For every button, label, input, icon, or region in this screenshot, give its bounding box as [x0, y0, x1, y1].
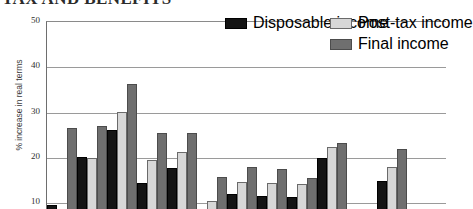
bar[interactable]: [77, 157, 87, 209]
y-axis-tick-20: 20: [18, 151, 40, 161]
y-axis-tick-40: 40: [18, 60, 40, 70]
y-axis-ticks: 5040302010: [14, 0, 40, 209]
bar-group: [167, 21, 197, 209]
bar[interactable]: [267, 183, 277, 209]
bar[interactable]: [247, 167, 257, 209]
bar-group: [257, 21, 287, 209]
bar[interactable]: [277, 169, 287, 209]
legend-label-final-income: Final income: [358, 35, 449, 53]
bar[interactable]: [67, 128, 77, 209]
bar[interactable]: [97, 126, 107, 209]
bar[interactable]: [217, 177, 227, 209]
bar-group: [287, 21, 317, 209]
bar[interactable]: [307, 178, 317, 209]
bar[interactable]: [117, 112, 127, 209]
legend-swatch-post-tax-income: [330, 18, 352, 29]
bar[interactable]: [107, 130, 117, 209]
bar[interactable]: [337, 143, 347, 209]
bar-group: [197, 21, 227, 209]
bar-group: [77, 21, 107, 209]
bar[interactable]: [207, 201, 217, 209]
bar[interactable]: [327, 147, 337, 209]
bar[interactable]: [387, 167, 397, 209]
legend-item-post-tax-income: Post-tax income: [330, 14, 473, 32]
bar[interactable]: [147, 160, 157, 209]
y-axis-tick-30: 30: [18, 106, 40, 116]
bar[interactable]: [157, 133, 167, 209]
bar[interactable]: [227, 194, 237, 209]
legend-swatch-final-income: [330, 39, 352, 50]
bar[interactable]: [187, 133, 197, 209]
legend-item-final-income: Final income: [330, 35, 473, 53]
bar[interactable]: [237, 182, 247, 209]
bar-group: [137, 21, 167, 209]
bar[interactable]: [397, 149, 407, 209]
legend-column-right: Post-tax income Final income: [330, 14, 473, 56]
bar-group: [227, 21, 257, 209]
bar[interactable]: [377, 181, 387, 209]
bar[interactable]: [297, 184, 307, 209]
bar[interactable]: [167, 168, 177, 209]
bar[interactable]: [317, 158, 327, 209]
legend-swatch-disposable-income: [225, 18, 247, 29]
bar-group: [47, 21, 77, 209]
y-axis-tick-50: 50: [18, 15, 40, 25]
bar[interactable]: [137, 183, 147, 209]
bar[interactable]: [287, 197, 297, 209]
bar-group: [107, 21, 137, 209]
bar[interactable]: [177, 152, 187, 209]
bar[interactable]: [257, 196, 267, 209]
bar[interactable]: [87, 158, 97, 209]
legend-label-post-tax-income: Post-tax income: [358, 14, 473, 32]
y-axis-tick-10: 10: [18, 196, 40, 206]
bar[interactable]: [47, 205, 57, 209]
bar[interactable]: [127, 84, 137, 209]
